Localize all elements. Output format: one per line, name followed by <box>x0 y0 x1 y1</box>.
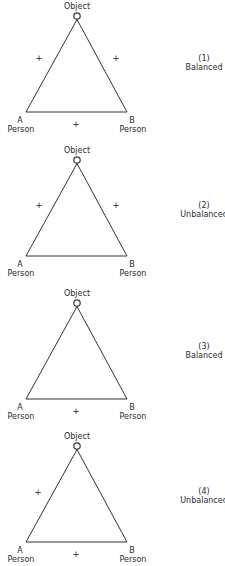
sign-a-object: + <box>35 201 43 210</box>
object-label: Object <box>64 146 90 155</box>
sign-a-b: + <box>72 120 80 129</box>
object-label: Object <box>64 432 90 441</box>
panel-number: (2) <box>180 201 225 210</box>
person-b-letter: B <box>129 403 135 412</box>
person-a-letter: A <box>17 260 22 269</box>
object-node-icon <box>74 443 80 449</box>
triad-panel-1: Object A Person B Person + + + (1) Balan… <box>0 0 225 142</box>
sign-a-b: + <box>72 550 80 559</box>
person-b-label: Person <box>120 555 147 564</box>
panel-caption: (4) Unbalanced <box>180 487 225 505</box>
person-b-label: Person <box>120 412 147 421</box>
panel-status: Unbalanced <box>180 210 225 219</box>
triad-panel-3: Object A Person B Person + (3) Balanced <box>0 287 225 429</box>
object-node-icon <box>74 13 80 19</box>
panel-number: (3) <box>186 342 223 351</box>
panel-status: Balanced <box>186 351 223 360</box>
object-node-icon <box>74 300 80 306</box>
sign-a-object: + <box>34 488 42 497</box>
sign-b-object: + <box>112 54 120 63</box>
panel-number: (4) <box>180 487 225 496</box>
person-a-letter: A <box>17 116 22 125</box>
person-b-label: Person <box>120 125 147 134</box>
panel-number: (1) <box>186 54 223 63</box>
panel-caption: (1) Balanced <box>186 54 223 72</box>
triad-panel-4: Object A Person B Person + + (4) Unbalan… <box>0 430 225 566</box>
triad-panel-2: Object A Person B Person + + (2) Unbalan… <box>0 144 225 286</box>
object-label: Object <box>64 289 90 298</box>
sign-a-object: + <box>35 54 43 63</box>
panel-caption: (3) Balanced <box>186 342 223 360</box>
person-b-label: Person <box>120 269 147 278</box>
object-label: Object <box>64 2 90 11</box>
object-node-icon <box>74 157 80 163</box>
panel-caption: (2) Unbalanced <box>180 201 225 219</box>
person-a-label: Person <box>8 412 35 421</box>
person-a-label: Person <box>8 555 35 564</box>
person-a-letter: A <box>17 546 22 555</box>
person-a-label: Person <box>8 269 35 278</box>
person-a-label: Person <box>8 125 35 134</box>
panel-status: Unbalanced <box>180 496 225 505</box>
person-a-letter: A <box>17 403 22 412</box>
person-b-letter: B <box>129 546 135 555</box>
person-b-letter: B <box>129 116 135 125</box>
panel-status: Balanced <box>186 63 223 72</box>
sign-b-object: + <box>112 201 120 210</box>
person-b-letter: B <box>129 260 135 269</box>
sign-a-b: + <box>72 407 80 416</box>
